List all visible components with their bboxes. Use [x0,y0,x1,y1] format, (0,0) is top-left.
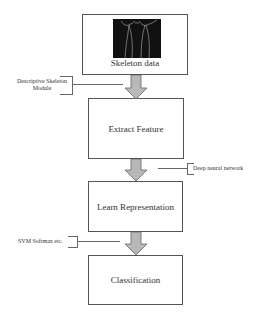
annotation-bracket [60,76,73,95]
arrow-down-icon [124,159,148,182]
node-label: Classification [111,275,161,285]
skeleton-data-node: Skeleton data [82,14,188,75]
annotation-svm-softmax: SVM Softmax etc. [18,238,63,245]
annotation-leader-line [78,241,120,242]
classification-node: Classification [88,255,183,305]
learn-representation-node: Learn Representation [88,181,183,232]
annotation-bracket [68,236,78,248]
arrow-down-icon [124,75,148,100]
skeleton-image [113,19,161,58]
annotation-deep-neural-network: Deep neural network [193,165,243,172]
node-label: Extract Feature [108,124,163,134]
node-label: Learn Representation [97,202,174,212]
node-label: Skeleton data [111,58,160,68]
arrow-down-icon [124,232,148,256]
annotation-leader-line [158,168,187,169]
extract-feature-node: Extract Feature [88,98,184,159]
annotation-leader-line [73,84,123,85]
